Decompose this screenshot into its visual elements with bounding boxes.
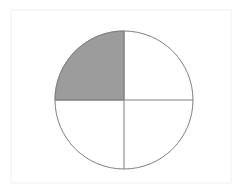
- fraction-circle-diagram: [0, 0, 247, 196]
- page-root: [0, 0, 247, 196]
